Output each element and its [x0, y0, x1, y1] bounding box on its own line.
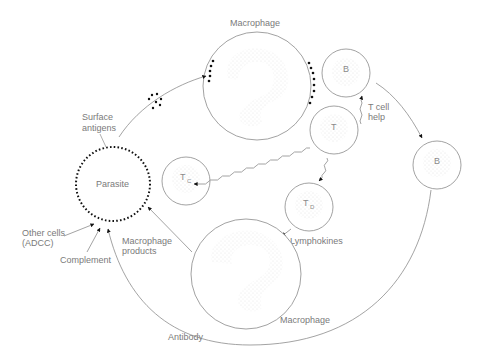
tc-cell-subscript: C — [187, 178, 192, 184]
surface-antigens-label-2: antigens — [82, 123, 117, 133]
t-to-tc-arrow — [194, 148, 310, 185]
immune-response-diagram: Macrophage Parasite Surface antigens B T… — [0, 0, 480, 363]
macrophage-top-cell — [203, 32, 315, 140]
shed-antigens — [148, 93, 162, 109]
surface-antigens-label-1: Surface — [82, 112, 113, 122]
tc-cell-label: T — [180, 172, 186, 182]
other-cells-label-2: (ADCC) — [22, 238, 54, 248]
complement-label: Complement — [60, 255, 112, 265]
t-cell-help-label-1: T cell — [368, 102, 389, 112]
surface-antigens-arrow — [119, 76, 206, 137]
surface-antigens-leader — [100, 134, 106, 147]
antibody-label: Antibody — [168, 332, 204, 342]
macrophage-products-label-2: products — [122, 246, 157, 256]
t-cell-label: T — [331, 122, 337, 132]
t-cell-help-label-2: help — [368, 112, 385, 122]
macrophage-top-label: Macrophage — [230, 18, 280, 28]
b-cell-right-label: B — [434, 156, 440, 166]
t-to-td-arrow — [319, 158, 328, 181]
macrophage-bottom-label: Macrophage — [280, 315, 330, 325]
td-cell-label: T — [303, 198, 309, 208]
b-cell-small-label: B — [343, 64, 349, 74]
td-cell-subscript: D — [310, 204, 315, 210]
parasite-label: Parasite — [96, 179, 129, 189]
macrophage-products-label-1: Macrophage — [122, 236, 172, 246]
tc-cell — [162, 157, 210, 205]
t-cell-help-arrow — [360, 96, 362, 124]
macrophage-bottom-cell — [191, 219, 301, 329]
td-cell — [285, 183, 333, 231]
lymphokines-label: Lymphokines — [290, 236, 343, 246]
other-cells-arrow — [64, 224, 94, 236]
complement-arrow — [87, 228, 100, 252]
other-cells-label-1: Other cells — [22, 228, 66, 238]
